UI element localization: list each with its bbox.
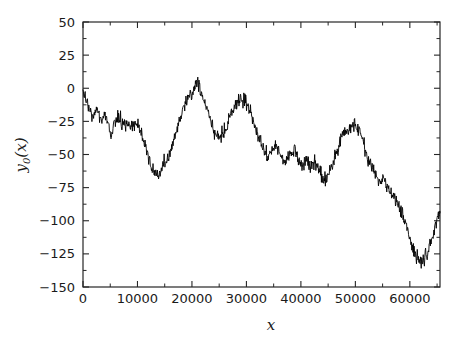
y-tick-label: −125 (39, 246, 75, 261)
y-tick-label: −50 (48, 147, 75, 162)
x-axis-major-ticks (83, 22, 410, 287)
y-tick-label: 50 (58, 15, 75, 30)
y-tick-label: −75 (48, 180, 75, 195)
y-tick-label: −100 (39, 213, 75, 228)
x-tick-label: 10000 (117, 291, 158, 306)
x-axis-minor-ticks (110, 22, 437, 287)
y-tick-label: 0 (67, 81, 75, 96)
x-tick-label: 60000 (389, 291, 430, 306)
y-axis-major-ticks (83, 22, 440, 287)
plot-frame (83, 22, 440, 287)
x-tick-label: 50000 (335, 291, 376, 306)
chart-canvas: 0100002000030000400005000060000 −150−125… (0, 0, 455, 338)
chart-figure: 0100002000030000400005000060000 −150−125… (0, 0, 455, 338)
y-tick-label: −150 (39, 280, 75, 295)
x-tick-label: 30000 (226, 291, 267, 306)
x-axis-title: x (267, 316, 276, 334)
y-tick-label: −25 (48, 114, 75, 129)
x-tick-label: 20000 (171, 291, 212, 306)
data-series-line (83, 77, 440, 268)
y-tick-label: 25 (58, 48, 75, 63)
y-axis-title-argument: (x) (12, 137, 30, 157)
x-tick-label: 0 (79, 291, 87, 306)
svg-text:y0(x): y0(x) (12, 137, 32, 173)
y-axis-minor-ticks (83, 39, 440, 271)
y-axis-tick-labels: −150−125−100−75−50−2502550 (39, 15, 75, 295)
x-axis-tick-labels: 0100002000030000400005000060000 (79, 291, 431, 306)
x-tick-label: 40000 (280, 291, 321, 306)
y-axis-title: y0(x) (12, 137, 32, 173)
